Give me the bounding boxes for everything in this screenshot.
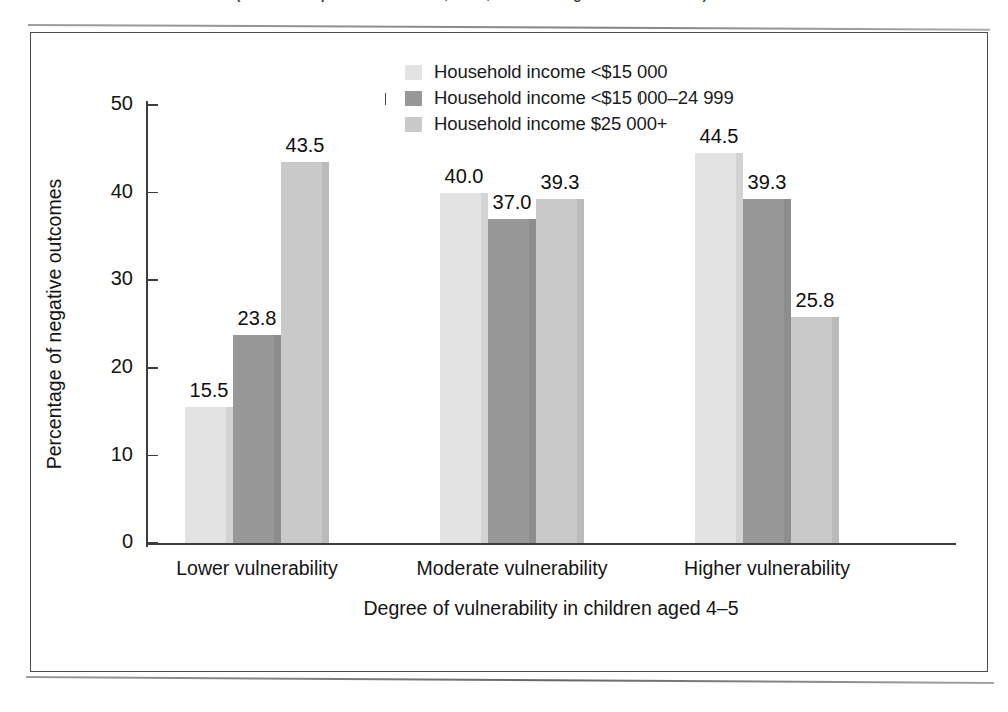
bar-edge-shading (577, 199, 584, 543)
y-axis-tick: 0 (147, 542, 158, 544)
legend-item-income-under-15000: Household income <$15 000 (405, 59, 734, 85)
clipped-caption-text: (Source: Adapted from Kershaw, Forer, & … (236, 0, 707, 2)
bar: 15.5 (185, 407, 233, 543)
figure-frame: Household income <$15 000 Household inco… (30, 32, 988, 672)
bar-value-label: 25.8 (796, 289, 835, 312)
bar-value-label: 23.8 (238, 307, 277, 330)
legend-label-series-1: Household income <$15 000 (434, 61, 668, 83)
bar: 44.5 (695, 153, 743, 543)
bar-edge-shading (529, 219, 536, 543)
y-axis-tick-label: 30 (111, 267, 133, 290)
bar-value-label: 44.5 (700, 125, 739, 148)
y-axis-tick-label: 20 (111, 355, 133, 378)
bar-value-label: 43.5 (286, 134, 325, 157)
group-separator-tick (640, 93, 642, 105)
bar-edge-shading (481, 193, 488, 543)
category-axis-label: Lower vulnerability (176, 557, 338, 580)
y-axis-tick-label: 50 (111, 92, 133, 115)
bar: 40.0 (440, 193, 488, 543)
bar: 43.5 (281, 162, 329, 543)
bar: 23.8 (233, 335, 281, 543)
plot-area: 01020304050 15.523.843.540.037.039.344.5… (146, 105, 956, 543)
page-edge-line-bottom (26, 676, 994, 684)
bar-value-label: 39.3 (748, 171, 787, 194)
y-axis-tick: 40 (147, 192, 158, 194)
bar-edge-shading (784, 199, 791, 543)
bar-edge-shading (736, 153, 743, 543)
category-axis-label: Higher vulnerability (684, 557, 850, 580)
bar: 37.0 (488, 219, 536, 543)
bar-edge-shading (274, 335, 281, 543)
y-axis-tick: 50 (147, 104, 158, 106)
clipped-caption-sliver: (Source: Adapted from Kershaw, Forer, & … (0, 0, 1008, 12)
bar: 39.3 (536, 199, 584, 543)
bar-value-label: 37.0 (493, 191, 532, 214)
category-axis-label: Moderate vulnerability (417, 557, 608, 580)
page-edge-line-top (28, 24, 990, 31)
bar: 25.8 (791, 317, 839, 543)
y-axis-line (146, 101, 148, 547)
x-axis-title: Degree of vulnerability in children aged… (363, 597, 738, 620)
y-axis-tick-label: 0 (122, 530, 133, 553)
bar-edge-shading (832, 317, 839, 543)
bar-value-label: 15.5 (190, 379, 229, 402)
legend-swatch-icon-series-2 (405, 91, 422, 106)
bar-value-label: 39.3 (541, 171, 580, 194)
y-axis-tick: 10 (147, 455, 158, 457)
y-axis-tick: 30 (147, 279, 158, 281)
bar: 39.3 (743, 199, 791, 543)
y-axis-tick: 20 (147, 367, 158, 369)
bar-edge-shading (322, 162, 329, 543)
bar-value-label: 40.0 (445, 165, 484, 188)
x-axis-line (146, 543, 956, 545)
y-axis-tick-label: 40 (111, 180, 133, 203)
legend-swatch-icon-series-1 (405, 65, 422, 80)
group-separator-tick (385, 93, 387, 105)
y-axis-tick-label: 10 (111, 443, 133, 466)
bar-edge-shading (226, 407, 233, 543)
y-axis-title: Percentage of negative outcomes (43, 179, 66, 470)
